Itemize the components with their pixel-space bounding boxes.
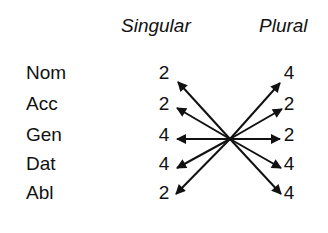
arrow-to-singular-acc — [177, 108, 230, 139]
arrow-to-plural-abl — [230, 139, 281, 194]
arrow-to-plural-nom — [230, 83, 280, 139]
arrows-diagram — [0, 0, 328, 233]
arrow-to-plural-acc — [230, 109, 282, 139]
arrow-to-plural-dat — [230, 139, 281, 168]
arrow-to-singular-nom — [178, 82, 230, 139]
arrow-to-singular-abl — [176, 139, 230, 194]
arrow-to-singular-dat — [177, 139, 230, 168]
